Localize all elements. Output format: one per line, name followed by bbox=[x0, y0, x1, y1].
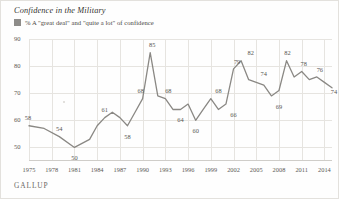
x-axis-tick-label: 2002 bbox=[227, 166, 240, 173]
y-axis-tick-label: 70 bbox=[14, 89, 21, 96]
line-series bbox=[29, 39, 332, 161]
data-point-label: 58 bbox=[25, 113, 31, 120]
data-point-label: 58 bbox=[124, 132, 130, 139]
x-axis-tick-label: 1987 bbox=[114, 166, 127, 173]
data-point-label: 85 bbox=[149, 40, 155, 47]
x-axis-tick-label: 1984 bbox=[91, 166, 104, 173]
y-axis-tick-label: 50 bbox=[14, 143, 21, 150]
series-polyline bbox=[29, 53, 332, 148]
data-point-label: 79 bbox=[234, 57, 240, 64]
data-point-label: 74 bbox=[331, 88, 337, 95]
stray-mark bbox=[63, 101, 65, 103]
x-axis-tick-label: 1975 bbox=[23, 166, 36, 173]
chart-title: Confidence in the Military bbox=[14, 6, 106, 15]
data-point-label: 76 bbox=[317, 65, 323, 72]
y-axis-tick-label: 80 bbox=[14, 62, 21, 69]
data-point-label: 78 bbox=[300, 59, 306, 66]
data-point-label: 68 bbox=[137, 86, 143, 93]
x-axis-tick-label: 1978 bbox=[45, 166, 58, 173]
x-axis-tick-label: 2014 bbox=[318, 166, 331, 173]
x-axis-tick-label: 1981 bbox=[68, 166, 81, 173]
data-point-label: 61 bbox=[102, 105, 108, 112]
x-axis-tick-label: 1999 bbox=[204, 166, 217, 173]
data-point-label: 74 bbox=[261, 70, 267, 77]
chart-card: Confidence in the Military % A "great de… bbox=[0, 0, 339, 199]
source-logo: GALLUP bbox=[14, 181, 49, 190]
data-point-label: 82 bbox=[284, 48, 290, 55]
data-point-label: 82 bbox=[247, 48, 253, 55]
data-point-label: 68 bbox=[215, 86, 221, 93]
data-point-label: 64 bbox=[177, 116, 183, 123]
data-point-label: 68 bbox=[165, 86, 171, 93]
y-axis-tick-label: 90 bbox=[14, 35, 21, 42]
x-axis-tick-label: 2008 bbox=[273, 166, 286, 173]
plot-area bbox=[29, 39, 332, 161]
data-point-label: 69 bbox=[276, 102, 282, 109]
x-axis-tick-label: 1996 bbox=[182, 166, 195, 173]
data-point-label: 66 bbox=[230, 111, 236, 118]
data-point-label: 60 bbox=[192, 127, 198, 134]
y-axis-tick-label: 60 bbox=[14, 116, 21, 123]
legend-swatch-icon bbox=[14, 19, 21, 26]
data-point-label: 50 bbox=[71, 154, 77, 161]
x-axis-tick-label: 1993 bbox=[159, 166, 172, 173]
x-axis-tick-label: 1990 bbox=[136, 166, 149, 173]
chart-legend: % A "great deal" and "quite a lot" of co… bbox=[14, 19, 154, 26]
legend-label: % A "great deal" and "quite a lot" of co… bbox=[25, 19, 154, 26]
data-point-label: 54 bbox=[56, 124, 62, 131]
x-axis-tick-label: 2005 bbox=[250, 166, 263, 173]
x-axis-tick-label: 2011 bbox=[295, 166, 308, 173]
